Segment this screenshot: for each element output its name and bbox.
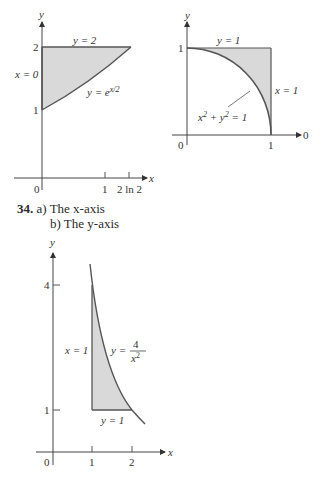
x-tick-label-1: 1 bbox=[89, 456, 95, 468]
figure-3: y x 0 4 1 1 2 x = 1 y = 1 y = 4 x2 bbox=[0, 0, 320, 478]
label-y-1: y = 1 bbox=[100, 414, 124, 426]
origin-label: 0 bbox=[44, 456, 50, 468]
x-tick-label-2: 2 bbox=[129, 456, 135, 468]
label-curve-prefix: y = bbox=[110, 344, 126, 356]
y-axis-label: y bbox=[49, 236, 55, 248]
y-tick-label-1: 1 bbox=[44, 404, 50, 416]
label-denominator: x2 bbox=[130, 351, 140, 364]
label-x-1: x = 1 bbox=[64, 344, 88, 356]
y-tick-label-4: 4 bbox=[44, 279, 50, 291]
x-axis-label: x bbox=[167, 446, 173, 458]
label-numerator: 4 bbox=[133, 338, 139, 350]
